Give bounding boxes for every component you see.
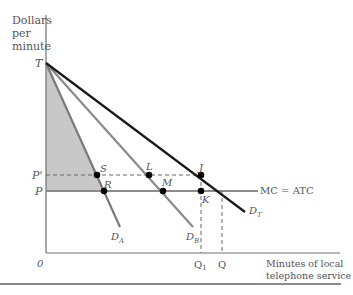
label-da: DA	[110, 231, 124, 245]
label-l: L	[145, 161, 153, 172]
label-mc-atc: MC = ATC	[260, 185, 314, 196]
y-axis-label-line1: Dollars	[12, 14, 52, 27]
demand-diagram: Dollars per minute T P' P 0 S R L M J K …	[0, 0, 353, 295]
label-dt: DT	[248, 205, 263, 219]
label-j: J	[197, 162, 204, 173]
label-s: S	[100, 163, 107, 174]
x-axis-label-line2: telephone service	[266, 270, 352, 281]
origin-label: 0	[37, 258, 44, 269]
label-q: Q	[218, 259, 226, 270]
label-m: M	[161, 177, 173, 188]
y-axis-label-line2: per	[12, 27, 32, 40]
label-r: R	[103, 179, 112, 190]
price-label-t: T	[35, 57, 44, 70]
y-axis-label-line3: minute	[12, 40, 51, 53]
point-l	[146, 172, 153, 179]
price-label-p: P	[34, 185, 43, 198]
point-m	[160, 188, 167, 195]
label-k: K	[201, 194, 210, 205]
label-q1: Q1	[194, 259, 207, 272]
label-db: DB	[185, 231, 199, 245]
price-label-p-prime: P'	[31, 169, 42, 182]
x-axis-label-line1: Minutes of local	[266, 258, 343, 269]
